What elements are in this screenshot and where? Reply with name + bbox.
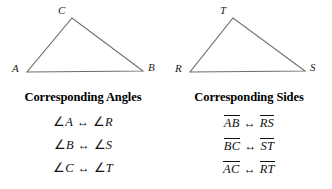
side-pair-3: AC↔RT [223,161,275,176]
segment-left-label: AB [224,115,240,130]
corresponding-sides-list: AB↔RS BC↔ST AC↔RT [166,108,332,189]
similar-triangles-figure: A B C R S T Corresponding Angles Corresp… [0,0,332,189]
angle-left-label: B [66,138,74,152]
angle-right-label: R [105,115,113,129]
segment-right-label: RS [260,115,275,130]
vertex-label-s: S [310,62,316,73]
angle-symbol: ∠ [53,161,65,175]
angle-pair-row: ∠B↔∠S [54,134,112,157]
correspondence-arrow-icon: ↔ [244,116,256,130]
correspondence-arrow-icon: ↔ [78,161,90,175]
angle-pair-2: ∠B↔∠S [54,139,112,152]
heading-cell-sides: Corresponding Sides [166,87,332,107]
vertex-label-t: T [220,5,226,16]
vertex-label-a: A [12,63,19,74]
triangle-abc-outline [27,18,143,72]
corresponding-sides-heading: Corresponding Sides [194,90,303,105]
segment-right-label: RT [260,161,275,176]
side-pair-row: AB↔RS [224,111,274,134]
angle-right-label: S [106,138,112,152]
angle-left-label: A [65,115,73,129]
vertex-label-b: B [148,62,155,73]
angle-right-label: T [106,161,113,175]
vertex-label-r: R [175,63,182,74]
correspondence-arrow-icon: ↔ [244,162,256,176]
angle-symbol: ∠ [93,115,105,129]
column-headings: Corresponding Angles Corresponding Sides [0,87,332,107]
heading-cell-angles: Corresponding Angles [0,87,166,107]
segment-left-label: AC [223,161,240,176]
angle-symbol: ∠ [94,161,106,175]
correspondence-arrow-icon: ↔ [77,115,89,129]
side-pair-row: BC↔ST [224,134,274,157]
segment-right-label: ST [260,138,274,153]
angle-pair-3: ∠C↔∠T [53,162,112,175]
angle-pair-row: ∠A↔∠R [53,111,112,134]
angle-pair-1: ∠A↔∠R [53,116,112,129]
corresponding-angles-list: ∠A↔∠R ∠B↔∠S ∠C↔∠T [0,108,166,189]
side-pair-1: AB↔RS [224,115,274,130]
correspondence-lists: ∠A↔∠R ∠B↔∠S ∠C↔∠T AB↔RS BC↔ST AC↔RT [0,108,332,189]
corresponding-angles-heading: Corresponding Angles [25,90,142,105]
vertex-label-c: C [58,5,65,16]
angle-symbol: ∠ [53,115,65,129]
side-pair-row: AC↔RT [223,157,275,180]
angle-pair-row: ∠C↔∠T [53,157,112,180]
angle-symbol: ∠ [94,138,106,152]
side-pair-2: BC↔ST [224,138,274,153]
segment-left-label: BC [224,138,241,153]
triangles-diagram: A B C R S T [0,0,332,86]
correspondence-arrow-icon: ↔ [78,138,90,152]
triangles-svg [0,0,332,86]
angle-left-label: C [65,161,73,175]
correspondence-arrow-icon: ↔ [244,139,256,153]
angle-symbol: ∠ [54,138,66,152]
triangle-rst-outline [190,18,305,72]
